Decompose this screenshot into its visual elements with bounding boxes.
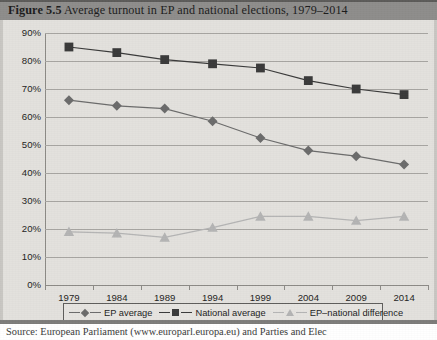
x-axis-tick-label: 1994	[190, 292, 236, 303]
y-axis-tick-label: 0%	[1, 279, 41, 290]
data-point-square	[304, 76, 313, 85]
y-axis-tick-label: 20%	[1, 223, 41, 234]
data-point-square	[112, 48, 121, 57]
x-axis-tick	[428, 285, 429, 290]
source-caption-area: Source: European Parliament (www.europar…	[0, 324, 437, 340]
figure-title-bar: Figure 5.5 Average turnout in EP and nat…	[0, 0, 437, 22]
legend-label: EP average	[103, 308, 156, 318]
page-left-edge	[0, 20, 3, 324]
legend-line-right	[90, 312, 101, 313]
y-axis-tick-label: 10%	[1, 251, 41, 262]
data-point-diamond	[399, 160, 409, 170]
legend-item: EP–national difference	[273, 308, 407, 318]
data-point-diamond	[303, 146, 313, 156]
x-axis-tick-label: 1979	[46, 292, 92, 303]
data-point-square	[352, 85, 361, 94]
x-axis-tick-label: 2014	[381, 292, 427, 303]
legend-label: National average	[194, 308, 269, 318]
y-axis-tick-label: 40%	[1, 167, 41, 178]
y-axis-tick-label: 70%	[1, 83, 41, 94]
data-point-square	[256, 64, 265, 73]
y-axis-tick-label: 60%	[1, 111, 41, 122]
data-point-square	[400, 90, 409, 99]
y-axis-tick-label: 30%	[1, 195, 41, 206]
data-point-square	[65, 43, 74, 52]
legend-line-left	[69, 312, 80, 313]
data-point-diamond	[160, 104, 170, 114]
data-point-triangle	[399, 211, 409, 220]
source-caption: Source: European Parliament (www.europar…	[6, 326, 436, 337]
chart-series-layer	[45, 33, 428, 286]
legend-line-right	[181, 312, 192, 313]
figure-number: Figure 5.5	[8, 3, 62, 17]
y-axis-tick-label: 80%	[1, 55, 41, 66]
x-axis-tick-label: 2009	[333, 292, 379, 303]
legend-line-left	[159, 312, 170, 313]
x-axis-tick-label: 1999	[237, 292, 283, 303]
legend-triangle-marker	[286, 309, 294, 316]
x-axis-tick-label: 1984	[94, 292, 140, 303]
legend-line-right	[296, 312, 307, 313]
legend-square-marker	[172, 309, 179, 316]
legend-line-left	[273, 312, 284, 313]
y-axis-tick-label: 50%	[1, 139, 41, 150]
legend-item: National average	[159, 308, 269, 318]
figure-title-text: Average turnout in EP and national elect…	[64, 3, 348, 17]
data-point-square	[208, 59, 217, 68]
legend-diamond-marker	[81, 308, 89, 316]
legend-item: EP average	[69, 308, 156, 318]
legend-label: EP–national difference	[309, 308, 407, 318]
x-axis-tick-label: 2004	[285, 292, 331, 303]
data-point-diamond	[351, 151, 361, 161]
chart-plot-area: 0%10%20%30%40%50%60%70%80%90% 1979198419…	[45, 33, 428, 285]
figure-page: Figure 5.5 Average turnout in EP and nat…	[0, 0, 437, 340]
data-point-diamond	[255, 133, 265, 143]
y-axis-tick-label: 90%	[1, 27, 41, 38]
data-point-diamond	[112, 101, 122, 111]
data-point-diamond	[208, 116, 218, 126]
data-point-square	[160, 55, 169, 64]
x-axis-tick-label: 1989	[142, 292, 188, 303]
data-point-diamond	[64, 95, 74, 105]
figure-body: 0%10%20%30%40%50%60%70%80%90% 1979198419…	[0, 20, 437, 324]
page-title: Figure 5.5 Average turnout in EP and nat…	[8, 3, 348, 18]
